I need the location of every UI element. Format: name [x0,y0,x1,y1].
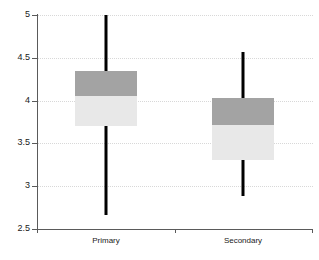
y-tick-label-3: 3 [25,181,30,190]
caption-bleed-text [8,250,313,260]
box-secondary-lower-quartile [212,125,274,160]
box-primary-lower-quartile [75,96,137,126]
gridline-3 [38,186,313,187]
y-tick-5 [32,15,37,16]
y-tick-4-5 [32,58,37,59]
y-tick-label-4-5: 4.5 [17,53,30,62]
box-primary-upper-quartile [75,71,137,96]
x-axis-label-primary: Primary [92,236,120,246]
x-axis-label-secondary: Secondary [224,236,262,246]
y-tick-label-3-5: 3.5 [17,138,30,147]
x-tick-center [175,229,176,233]
y-tick-4 [32,101,37,102]
y-tick-label-2-5: 2.5 [17,224,30,233]
y-tick-3-5 [32,143,37,144]
x-tick-right [312,229,313,233]
gridline-5 [38,15,313,16]
y-axis-line [37,14,38,230]
x-tick-left [37,229,38,233]
gridline-4-5 [38,58,313,59]
box-plot-figure: 5 4.5 4 3.5 3 2.5 Primary Secondary [0,0,319,260]
y-tick-3 [32,186,37,187]
box-secondary-upper-quartile [212,98,274,125]
y-tick-label-5: 5 [25,10,30,19]
y-tick-label-4: 4 [25,96,30,105]
